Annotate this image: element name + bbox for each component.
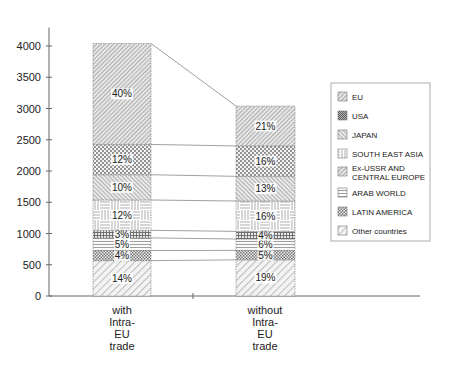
legend-swatch-icon bbox=[338, 149, 347, 158]
segment-percent-label: 13% bbox=[255, 183, 275, 194]
legend-item: USA bbox=[338, 111, 369, 121]
segment-percent-label: 21% bbox=[255, 121, 275, 132]
y-tick-label: 0 bbox=[35, 290, 41, 302]
segment-percent-label: 4% bbox=[115, 250, 130, 261]
segment-percent-label: 16% bbox=[255, 156, 275, 167]
legend-swatch-icon bbox=[338, 92, 347, 101]
y-tick-label: 500 bbox=[23, 259, 41, 271]
x-axis-category-labels: withIntra-EUtradewithoutIntra-EUtrade bbox=[109, 304, 282, 352]
legend-box bbox=[331, 83, 430, 241]
legend-swatch-icon bbox=[338, 111, 347, 120]
segment-percent-label: 5% bbox=[258, 250, 273, 261]
y-tick-label: 1000 bbox=[17, 228, 41, 240]
y-tick-label: 1500 bbox=[17, 196, 41, 208]
y-tick-label: 3500 bbox=[17, 71, 41, 83]
y-tick-label: 2000 bbox=[17, 165, 41, 177]
legend-swatch-icon bbox=[338, 130, 347, 139]
segment-percent-label: 6% bbox=[258, 239, 273, 250]
category-label-line: without bbox=[247, 304, 283, 316]
legend-swatch-icon bbox=[338, 167, 347, 176]
y-tick-label: 4000 bbox=[17, 40, 41, 52]
segment-percent-label: 5% bbox=[115, 239, 130, 250]
segment-percent-label: 10% bbox=[112, 182, 132, 193]
bar-with-intra-eu: 14%4%5%3%12%10%12%40% bbox=[93, 43, 151, 296]
category-label-line: EU bbox=[114, 328, 129, 340]
segment-percent-label: 14% bbox=[112, 273, 132, 284]
legend-swatch-icon bbox=[338, 226, 347, 235]
legend-label: LATIN AMERICA bbox=[352, 208, 413, 217]
legend-label: CENTRAL EUROPE bbox=[352, 173, 425, 182]
legend-label: EU bbox=[352, 93, 363, 102]
y-tick-label: 3000 bbox=[17, 103, 41, 115]
legend-label: Ex-USSR AND bbox=[352, 164, 405, 173]
legend-label: SOUTH EAST ASIA bbox=[352, 150, 424, 159]
category-label-line: with bbox=[111, 304, 132, 316]
legend-label: Other countries bbox=[352, 227, 407, 236]
category-label-line: Intra- bbox=[252, 316, 278, 328]
bar-connector-lines bbox=[151, 43, 236, 260]
category-label-line: Intra- bbox=[109, 316, 135, 328]
y-tick-label: 2500 bbox=[17, 134, 41, 146]
bars: 14%4%5%3%12%10%12%40%19%5%6%4%16%13%16%2… bbox=[93, 43, 295, 296]
legend-swatch-icon bbox=[338, 207, 347, 216]
category-label-line: trade bbox=[109, 340, 134, 352]
stacked-bar-chart: 05001000150020002500300035004000 14%4%5%… bbox=[0, 0, 449, 366]
segment-percent-label: 19% bbox=[255, 272, 275, 283]
segment-percent-label: 40% bbox=[112, 88, 132, 99]
legend-label: JAPAN bbox=[352, 131, 377, 140]
legend: EUUSAJAPANSOUTH EAST ASIAEx-USSR ANDCENT… bbox=[331, 83, 430, 241]
category-label-line: trade bbox=[252, 340, 277, 352]
segment-percent-label: 16% bbox=[255, 211, 275, 222]
bar-without-intra-eu: 19%5%6%4%16%13%16%21% bbox=[236, 106, 295, 296]
legend-label: USA bbox=[352, 112, 369, 121]
category-label-line: EU bbox=[257, 328, 272, 340]
legend-item: JAPAN bbox=[338, 130, 377, 140]
legend-swatch-icon bbox=[338, 188, 347, 197]
segment-percent-label: 12% bbox=[112, 154, 132, 165]
legend-label: ARAB WORLD bbox=[352, 189, 406, 198]
segment-percent-label: 12% bbox=[112, 210, 132, 221]
